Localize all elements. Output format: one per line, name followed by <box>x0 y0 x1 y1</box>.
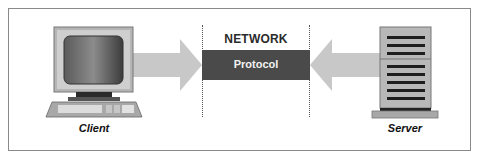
server-tower-icon <box>371 26 439 120</box>
network-title: NETWORK <box>202 32 310 46</box>
desktop-computer-icon <box>44 26 144 118</box>
protocol-label: Protocol <box>202 58 310 70</box>
client-label: Client <box>44 122 144 134</box>
server-label: Server <box>371 122 439 134</box>
protocol-band: Protocol <box>202 50 310 80</box>
